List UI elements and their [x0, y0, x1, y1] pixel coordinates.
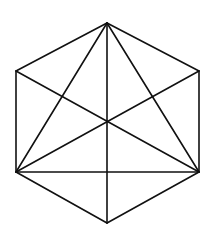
edge-top-lower_left [16, 23, 107, 172]
hexagon-diagram [0, 0, 208, 229]
edge-top-upper_right [107, 23, 199, 71]
edge-lower_right-bottom [107, 172, 199, 223]
edge-upper_left-top [16, 23, 107, 71]
edge-top-lower_right [107, 23, 199, 172]
hexagon-edges [16, 23, 199, 223]
edge-bottom-lower_left [16, 172, 107, 223]
